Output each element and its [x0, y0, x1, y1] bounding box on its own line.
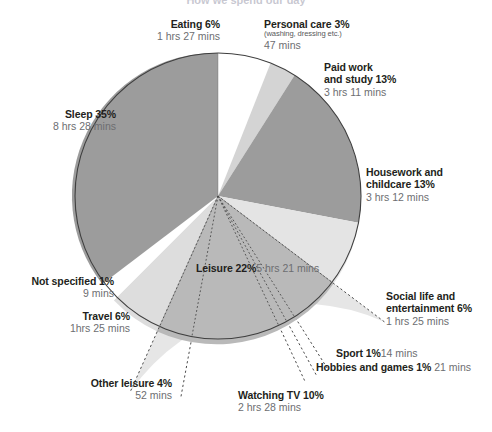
label-housework-title-line1: Housework and	[366, 166, 492, 178]
label-social-life: Social life and entertainment 6% 1 hrs 2…	[386, 290, 492, 327]
label-eating-value: 1 hrs 27 mins	[116, 30, 220, 42]
label-other-leisure: Other leisure 4% 52 mins	[60, 377, 172, 402]
label-travel-title: Travel 6%	[14, 310, 130, 322]
label-not-specified-title: Not specified 1%	[2, 275, 114, 287]
label-social-life-value: 1 hrs 25 mins	[386, 315, 492, 327]
label-personal-care-note: (washing, dressing etc.)	[264, 30, 392, 39]
label-personal-care-value: 47 mins	[264, 39, 392, 51]
label-housework: Housework and childcare 13% 3 hrs 12 min…	[366, 166, 492, 203]
label-sleep-value: 8 hrs 28 mins	[6, 120, 116, 132]
label-social-life-title-line1: Social life and	[386, 290, 492, 302]
pie-chart: How we spend our day	[0, 0, 492, 432]
label-paid-work-value: 3 hrs 11 mins	[324, 86, 484, 98]
label-not-specified: Not specified 1% 9 mins	[2, 275, 114, 300]
label-eating-title: Eating 6%	[116, 18, 220, 30]
label-watching-tv-value: 2 hrs 28 mins	[238, 401, 378, 413]
label-personal-care: Personal care 3% (washing, dressing etc.…	[264, 18, 392, 52]
label-housework-value: 3 hrs 12 mins	[366, 191, 492, 203]
label-hobbies-games-title: Hobbies and games 1%	[316, 361, 431, 373]
label-other-leisure-value: 52 mins	[60, 389, 172, 401]
label-paid-work-title-line1: Paid work	[324, 61, 484, 73]
label-watching-tv-title: Watching TV 10%	[238, 389, 378, 401]
label-watching-tv: Watching TV 10% 2 hrs 28 mins	[238, 389, 378, 414]
pie-slices	[72, 53, 361, 344]
label-hobbies-games-value: 21 mins	[431, 361, 471, 373]
label-not-specified-value: 9 mins	[2, 287, 114, 299]
label-eating: Eating 6% 1 hrs 27 mins	[116, 18, 220, 43]
label-leisure: Leisure 22%5 hrs 21 mins	[196, 258, 356, 277]
label-housework-title-line2: childcare 13%	[366, 178, 492, 190]
label-hobbies-games: Hobbies and games 1% 21 mins	[316, 357, 492, 376]
label-other-leisure-title: Other leisure 4%	[60, 377, 172, 389]
label-leisure-value: 5 hrs 21 mins	[256, 262, 319, 274]
label-paid-work: Paid work and study 13% 3 hrs 11 mins	[324, 61, 484, 98]
label-social-life-title-line2: entertainment 6%	[386, 302, 492, 314]
label-sleep: Sleep 35% 8 hrs 28 mins	[6, 108, 116, 133]
label-travel: Travel 6% 1hrs 25 mins	[14, 310, 130, 335]
label-paid-work-title-line2: and study 13%	[324, 73, 484, 85]
label-leisure-title: Leisure 22%	[196, 262, 256, 274]
label-travel-value: 1hrs 25 mins	[14, 322, 130, 334]
label-sleep-title: Sleep 35%	[6, 108, 116, 120]
